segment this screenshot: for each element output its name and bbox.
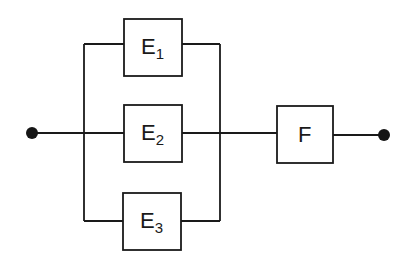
- input-terminal-dot: [26, 127, 38, 139]
- block-e2: E2: [124, 105, 182, 162]
- block-e1: E1: [124, 19, 182, 76]
- svg-text:F: F: [298, 122, 311, 147]
- output-terminal-dot: [378, 129, 390, 141]
- block-f: F: [277, 106, 333, 163]
- block-e3: E3: [123, 193, 181, 250]
- reliability-diagram: E1 E2 E3 F: [0, 0, 417, 264]
